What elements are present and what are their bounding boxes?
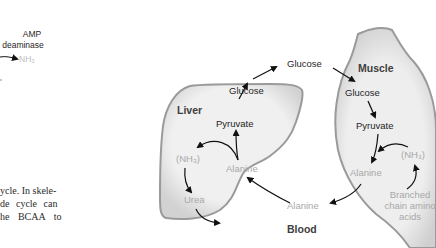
fragment-dot	[0, 79, 2, 81]
muscle-title: Muscle	[358, 62, 394, 74]
liver-alanine-label: Alanine	[226, 163, 258, 174]
liver-glucose-label: Glucose	[229, 85, 264, 96]
muscle-alanine-label: Alanine	[350, 167, 382, 178]
liver-nh3-label: (NH₃)	[176, 153, 200, 164]
bcaa-label-line-3: acids	[378, 211, 436, 222]
liver-urea-label: Urea	[184, 194, 205, 205]
blood-glucose-label: Glucose	[287, 58, 322, 69]
liver-title: Liver	[177, 104, 202, 116]
muscle-glucose-label: Glucose	[345, 87, 380, 98]
muscle-pyruvate-label: Pyruvate	[356, 120, 394, 131]
blood-alanine-to-liver-arrow	[248, 178, 290, 203]
liver-pyruvate-label: Pyruvate	[216, 118, 254, 129]
bcaa-label-line-2: chain amino	[374, 200, 436, 211]
blood-title: Blood	[287, 223, 317, 235]
bcaa-label-line-1: Branched	[378, 189, 436, 200]
blood-alanine-label: Alanine	[287, 200, 319, 211]
deaminase-arrow	[0, 57, 17, 59]
liver-glucose-to-blood-arrow	[253, 67, 276, 79]
muscle-nh3-label: (NH₃)	[401, 149, 425, 160]
